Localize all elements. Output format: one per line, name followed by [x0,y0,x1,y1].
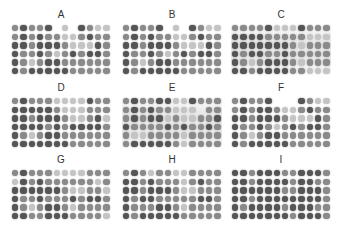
dot [70,179,76,185]
dot [103,132,109,138]
dot [140,179,146,185]
dot [140,187,146,193]
dot [95,42,101,48]
dot [156,115,162,121]
dot [87,51,93,57]
dot [257,141,263,147]
dot [156,196,162,202]
dot-grid [231,97,331,149]
dot [29,59,35,65]
dot [29,98,35,104]
dot [198,132,204,138]
dot [189,98,195,104]
dot [282,187,288,193]
dot [140,115,146,121]
panel-label: D [11,83,111,93]
dot [20,179,26,185]
dot [45,213,51,219]
dot [140,196,146,202]
dot [140,98,146,104]
dot [70,59,76,65]
dot [70,204,76,210]
dot [315,34,321,40]
dot [257,98,263,104]
dot [20,141,26,147]
dot [103,51,109,57]
dot [307,34,313,40]
dot [173,68,179,74]
dot [87,196,93,202]
dot [45,204,51,210]
dot [45,170,51,176]
dot [54,115,60,121]
dot [198,115,204,121]
dot [214,107,220,113]
dot [12,179,18,185]
dot [249,204,255,210]
dot [257,124,263,130]
dot [78,25,84,31]
dot [173,204,179,210]
dot [29,204,35,210]
dot [87,141,93,147]
dot [95,132,101,138]
dot [165,196,171,202]
dot [189,115,195,121]
dot [257,213,263,219]
dot [189,204,195,210]
dot [298,68,304,74]
dot [232,187,238,193]
dot [95,196,101,202]
dot [103,196,109,202]
dot [140,170,146,176]
dot [290,98,296,104]
dot [181,179,187,185]
dot [198,51,204,57]
dot [62,124,68,130]
dot [232,25,238,31]
dot [87,179,93,185]
dot [274,187,280,193]
dot [20,59,26,65]
dot [20,107,26,113]
dot [12,204,18,210]
dot [323,187,329,193]
dot [29,124,35,130]
dot [323,34,329,40]
panel-label: C [231,10,331,20]
dot [148,187,154,193]
dot [87,124,93,130]
dot [315,141,321,147]
dot [206,98,212,104]
dot [165,204,171,210]
dot [249,68,255,74]
dot [131,141,137,147]
dot [282,179,288,185]
dot [103,204,109,210]
dot [181,204,187,210]
dot [12,25,18,31]
dot [232,42,238,48]
dot [156,68,162,74]
dot [78,51,84,57]
dot [232,124,238,130]
dot [323,204,329,210]
dot [103,213,109,219]
dot [45,34,51,40]
dot [62,107,68,113]
dot [123,179,129,185]
dot [148,34,154,40]
dot [29,196,35,202]
dot [29,179,35,185]
dot [62,204,68,210]
dot [189,187,195,193]
dot [265,179,271,185]
dot [274,115,280,121]
dot [282,141,288,147]
dot [181,51,187,57]
dot [249,124,255,130]
dot [274,196,280,202]
dot [165,107,171,113]
dot [95,34,101,40]
dot [181,59,187,65]
